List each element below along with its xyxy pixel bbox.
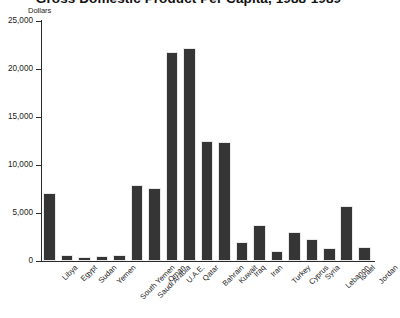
bar (43, 193, 56, 261)
bar (340, 206, 353, 261)
bar (323, 248, 336, 261)
bar (61, 255, 74, 261)
bar (183, 48, 196, 261)
chart-title: Gross Domestic Product Per Capita, 1988-… (0, 0, 377, 6)
y-axis-unit-label: Dollars (28, 6, 51, 15)
y-axis-tick-label: 5,000 (13, 208, 34, 217)
bar (271, 251, 284, 261)
bar (78, 257, 91, 261)
y-axis-tick-label: 0 (28, 256, 33, 265)
y-axis-tick: 0 (36, 261, 41, 262)
bar (236, 242, 249, 261)
bar (306, 239, 319, 261)
bar (358, 247, 371, 261)
y-axis-tick-label: 10,000 (8, 160, 33, 169)
x-axis-tick-label: Yemen (115, 263, 138, 286)
x-axis-labels: LibyaEgyptSudanYemenSouth YemenSaudi Ara… (41, 263, 375, 318)
y-axis-tick-label: 15,000 (8, 112, 33, 121)
x-axis-line (41, 261, 375, 262)
x-axis-tick-label: Jordan (377, 263, 400, 286)
x-axis-tick-label: Sudan (97, 263, 119, 285)
bar (288, 232, 301, 261)
y-axis-tick-label: 20,000 (8, 64, 33, 73)
bar (113, 255, 126, 261)
x-axis-tick-label: Egypt (79, 263, 99, 283)
bar (201, 141, 214, 261)
bar (131, 185, 144, 261)
bar (253, 225, 266, 261)
x-axis-tick-label: Libya (61, 263, 80, 282)
bar (166, 52, 179, 261)
bar (218, 142, 231, 261)
y-axis-tick-label: 25,000 (8, 16, 33, 25)
bar (148, 188, 161, 261)
bar (96, 256, 109, 261)
x-axis-tick-label: Iran (269, 263, 285, 279)
plot-area (41, 21, 373, 261)
